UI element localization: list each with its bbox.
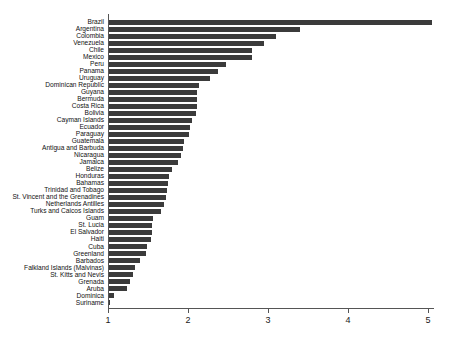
bar <box>108 41 264 46</box>
y-axis-line <box>108 14 109 308</box>
bar-row: Chile <box>0 47 455 54</box>
bar-row: Costa Rica <box>0 103 455 110</box>
bar <box>108 195 166 200</box>
bar <box>108 118 192 123</box>
bar <box>108 188 167 193</box>
bar <box>108 279 130 284</box>
bar-row: Guyana <box>0 89 455 96</box>
bar <box>108 111 196 116</box>
bar-row: Nicaragua <box>0 152 455 159</box>
bar-row: Venezuela <box>0 40 455 47</box>
bar-row: Brazil <box>0 19 455 26</box>
bar <box>108 62 226 67</box>
plot-area: BrazilArgentinaColombiaVenezuelaChileMex… <box>0 0 455 352</box>
bar <box>108 48 252 53</box>
bar <box>108 90 197 95</box>
bar-row: Jamaica <box>0 159 455 166</box>
bar-row: Haiti <box>0 236 455 243</box>
bar <box>108 258 140 263</box>
bar-rows: BrazilArgentinaColombiaVenezuelaChileMex… <box>0 19 455 307</box>
bar-row: Turks and Caicos Islands <box>0 208 455 215</box>
bar <box>108 251 146 256</box>
bar <box>108 223 152 228</box>
bar-row: St. Kitts and Nevis <box>0 272 455 279</box>
x-tick <box>428 308 429 313</box>
x-tick-label: 2 <box>185 315 190 325</box>
bar <box>108 216 153 221</box>
bar-row: Mexico <box>0 54 455 61</box>
bar-row: Cuba <box>0 244 455 251</box>
x-tick-label: 1 <box>105 315 110 325</box>
bar-row: Greenland <box>0 251 455 258</box>
bar <box>108 34 276 39</box>
bar <box>108 125 190 130</box>
x-tick-label: 3 <box>265 315 270 325</box>
bar <box>108 181 168 186</box>
x-axis-line <box>108 308 434 309</box>
bar <box>108 153 181 158</box>
bar <box>108 237 151 242</box>
bar <box>108 20 432 25</box>
bar <box>108 230 152 235</box>
bar <box>108 69 218 74</box>
bar-row: Antigua and Barbuda <box>0 145 455 152</box>
bar <box>108 76 210 81</box>
bar <box>108 202 164 207</box>
bar-row: El Salvador <box>0 229 455 236</box>
x-tick <box>348 308 349 313</box>
bar-row: Panama <box>0 68 455 75</box>
bar-row: Paraguay <box>0 131 455 138</box>
bar-row: Cayman Islands <box>0 117 455 124</box>
bar <box>108 83 199 88</box>
bar <box>108 104 197 109</box>
bar <box>108 139 184 144</box>
bar <box>108 97 197 102</box>
bar <box>108 167 172 172</box>
bar <box>108 55 252 60</box>
bar <box>108 132 189 137</box>
bar <box>108 244 147 249</box>
bar-row: Guam <box>0 215 455 222</box>
x-tick <box>188 308 189 313</box>
bar <box>108 27 300 32</box>
bar-row: Suriname <box>0 300 455 307</box>
x-tick-label: 4 <box>345 315 350 325</box>
x-tick <box>108 308 109 313</box>
bar-row: Dominican Republic <box>0 82 455 89</box>
bar <box>108 286 127 291</box>
bar-row: Argentina <box>0 26 455 33</box>
bar <box>108 174 169 179</box>
bar-row: Honduras <box>0 173 455 180</box>
bar <box>108 265 135 270</box>
bar <box>108 160 178 165</box>
x-tick <box>268 308 269 313</box>
bar-row: Colombia <box>0 33 455 40</box>
bar-row: Belize <box>0 166 455 173</box>
bar-row: Peru <box>0 61 455 68</box>
bar <box>108 209 161 214</box>
bar-row: Ecuador <box>0 124 455 131</box>
category-label: Suriname <box>76 299 104 306</box>
bar-row: Bermuda <box>0 96 455 103</box>
bar <box>108 272 133 277</box>
x-tick-label: 5 <box>425 315 430 325</box>
bar-row: Aruba <box>0 286 455 293</box>
bar <box>108 146 183 151</box>
bar-row: St. Lucia <box>0 222 455 229</box>
bar-row: Grenada <box>0 279 455 286</box>
bar-chart: BrazilArgentinaColombiaVenezuelaChileMex… <box>0 0 455 352</box>
bar-row: Dominica <box>0 293 455 300</box>
